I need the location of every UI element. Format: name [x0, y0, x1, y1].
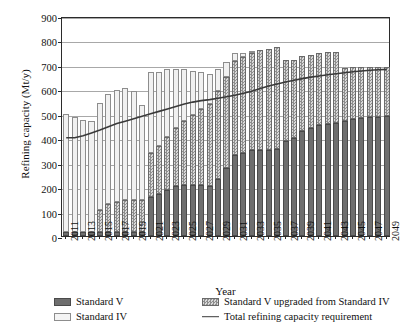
- x-axis-tick-label: 2043: [339, 221, 350, 241]
- x-axis: 2011201320152017201920212023202520272029…: [61, 239, 390, 283]
- legend-swatch-siv: [54, 313, 71, 321]
- x-axis-tick-label: 2049: [390, 221, 401, 241]
- x-axis-tick-mark: [386, 236, 387, 239]
- x-axis-tick-label: 2011: [69, 221, 80, 241]
- x-axis-tick-label: 2019: [137, 221, 148, 241]
- legend-item: Standard IV: [54, 311, 127, 322]
- legend-swatch-sup: [202, 298, 219, 306]
- y-axis-tick-label: 500: [25, 110, 57, 121]
- legend-item: Standard V: [54, 296, 123, 307]
- x-axis-tick-mark: [301, 236, 302, 239]
- x-axis-tick-label: 2041: [322, 221, 333, 241]
- legend-swatch-line: [202, 313, 219, 321]
- y-axis-tick-label: 400: [25, 135, 57, 146]
- y-axis-tick-label: 700: [25, 61, 57, 72]
- x-axis-tick-label: 2025: [187, 221, 198, 241]
- x-axis-tick-mark: [369, 236, 370, 239]
- x-axis-tick-label: 2031: [238, 221, 249, 241]
- x-axis-tick-mark: [200, 236, 201, 239]
- x-axis-tick-label: 2015: [103, 221, 114, 241]
- x-axis-tick-mark: [352, 236, 353, 239]
- x-axis-tick-label: 2023: [170, 221, 181, 241]
- x-axis-tick-mark: [65, 236, 66, 239]
- legend-item: Total refining capacity requirement: [202, 311, 372, 322]
- x-axis-tick-mark: [318, 236, 319, 239]
- y-axis-tick-label: 100: [25, 208, 57, 219]
- x-axis-tick-label: 2013: [86, 221, 97, 241]
- x-axis-tick-label: 2039: [305, 221, 316, 241]
- x-axis-tick-mark: [217, 236, 218, 239]
- x-axis-tick-label: 2037: [289, 221, 300, 241]
- x-axis-tick-label: 2033: [255, 221, 266, 241]
- x-axis-tick-label: 2045: [356, 221, 367, 241]
- line-layer: [62, 18, 389, 236]
- x-axis-tick-label: 2047: [373, 221, 384, 241]
- x-axis-tick-mark: [166, 236, 167, 239]
- x-axis-tick-label: 2021: [154, 221, 165, 241]
- legend: Standard VStandard IVStandard V upgraded…: [16, 296, 396, 328]
- x-axis-tick-mark: [99, 236, 100, 239]
- line-path: [66, 69, 387, 137]
- chart-figure: Refining capacity (Mt/y) 010020030040050…: [0, 0, 408, 331]
- legend-label: Total refining capacity requirement: [224, 311, 372, 322]
- y-axis-tick-label: 0: [25, 233, 57, 244]
- x-axis-tick-label: 2029: [221, 221, 232, 241]
- y-axis-tick-label: 300: [25, 159, 57, 170]
- y-axis-tick-label: 200: [25, 184, 57, 195]
- legend-label: Standard V upgraded from Standard IV: [224, 296, 390, 307]
- total-requirement-line: [62, 18, 391, 238]
- x-axis-tick-mark: [183, 236, 184, 239]
- y-axis-tick-label: 800: [25, 37, 57, 48]
- plot-area: 0100200300400500600700800900: [61, 17, 390, 237]
- legend-label: Standard V: [76, 296, 123, 307]
- x-axis-tick-label: 2017: [120, 221, 131, 241]
- legend-swatch-sv: [54, 298, 71, 306]
- x-axis-tick-label: 2027: [204, 221, 215, 241]
- y-axis-tick-label: 600: [25, 86, 57, 97]
- x-axis-tick-mark: [133, 236, 134, 239]
- x-axis-tick-label: 2035: [272, 221, 283, 241]
- x-axis-tick-mark: [234, 236, 235, 239]
- x-axis-tick-mark: [150, 236, 151, 239]
- legend-item: Standard V upgraded from Standard IV: [202, 296, 390, 307]
- x-axis-tick-mark: [82, 236, 83, 239]
- legend-label: Standard IV: [76, 311, 127, 322]
- x-axis-tick-mark: [268, 236, 269, 239]
- x-axis-tick-mark: [285, 236, 286, 239]
- x-axis-tick-mark: [335, 236, 336, 239]
- x-axis-tick-mark: [116, 236, 117, 239]
- y-axis-tick-label: 900: [25, 13, 57, 24]
- x-axis-tick-mark: [251, 236, 252, 239]
